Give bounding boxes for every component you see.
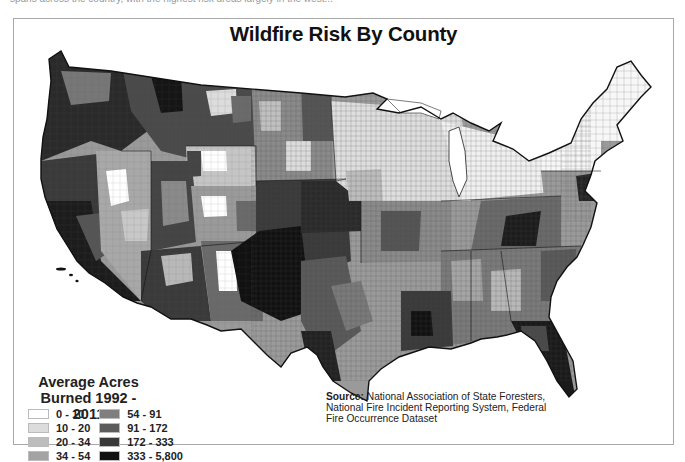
- legend-item: 20 - 34: [28, 436, 90, 447]
- legend-swatch: [28, 451, 49, 461]
- map-figure: Wildfire Risk By County Average Acres Bu…: [13, 18, 674, 445]
- legend-swatch: [28, 409, 49, 419]
- legend-swatch: [28, 423, 49, 433]
- legend-swatch: [99, 437, 120, 447]
- source-label: Source:: [326, 391, 364, 402]
- legend-item: 333 - 5,800: [99, 450, 183, 461]
- legend-item: 0 - 10: [28, 408, 90, 419]
- legend-swatch: [99, 423, 120, 433]
- legend-item: 172 - 333: [99, 436, 183, 447]
- legend-title-line1: Average Acres: [26, 374, 151, 390]
- source-note: Source: National Association of State Fo…: [326, 391, 556, 424]
- legend: 0 - 10 54 - 91 10 - 20 91 - 172 20 - 34 …: [28, 408, 183, 461]
- legend-swatch: [99, 451, 120, 461]
- legend-item: 91 - 172: [99, 422, 183, 433]
- legend-swatch: [28, 437, 49, 447]
- legend-item: 34 - 54: [28, 450, 90, 461]
- legend-item: 54 - 91: [99, 408, 183, 419]
- map-title: Wildfire Risk By County: [14, 22, 673, 46]
- legend-item: 10 - 20: [28, 422, 90, 433]
- cropped-caption: spans across the country, with the highe…: [10, 0, 340, 5]
- legend-swatch: [99, 409, 120, 419]
